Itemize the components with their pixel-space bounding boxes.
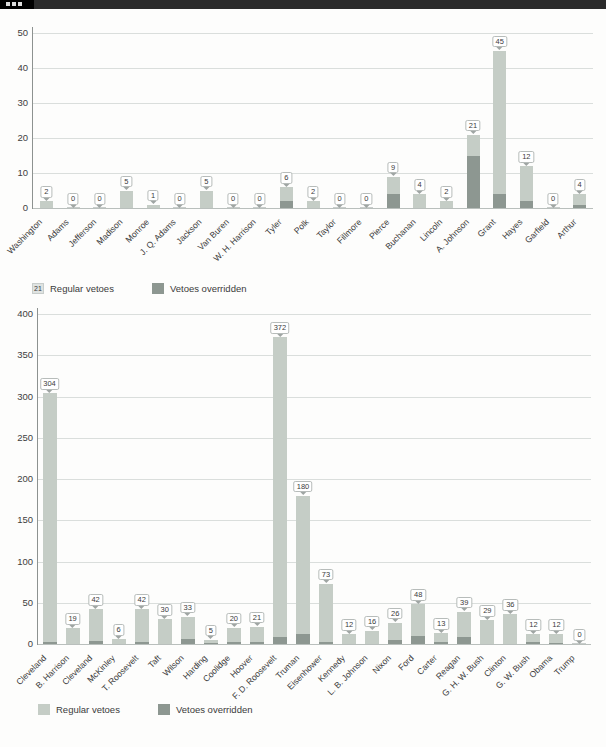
bar-segment-regular (200, 191, 213, 209)
callout-arrow-icon (497, 47, 503, 50)
value-callout: 0 (67, 193, 78, 208)
value-callout: 0 (361, 193, 372, 208)
callout-arrow-icon (507, 611, 513, 614)
bar-kennedy[interactable] (342, 634, 356, 644)
bar-f-d-roosevelt[interactable] (273, 337, 287, 644)
bar-truman[interactable] (296, 496, 310, 645)
bar-hayes[interactable] (520, 166, 533, 208)
callout-arrow-icon (231, 624, 237, 627)
x-axis-category-label: Jefferson (66, 217, 98, 249)
bar-segment-regular (250, 627, 264, 642)
bar-segment-regular (319, 584, 333, 643)
value-callout-label: 0 (361, 193, 372, 205)
value-callout-label: 29 (480, 605, 495, 617)
bar-wilson[interactable] (181, 617, 195, 644)
chart2-plot-area: 050100150200250300350400304Cleveland19B.… (38, 314, 591, 644)
value-callout: 2 (41, 186, 52, 201)
bar-segment-regular (43, 393, 57, 642)
bar-pierce[interactable] (387, 177, 400, 209)
bar-harding[interactable] (204, 640, 218, 644)
x-axis-category-label: Taylor (314, 217, 337, 240)
bar-segment-regular (307, 201, 320, 208)
bar-segment-overridden (387, 194, 400, 208)
bar-taft[interactable] (158, 619, 172, 644)
bar-mckinley[interactable] (112, 639, 126, 644)
value-callout-label: 2 (441, 186, 452, 198)
bar-l-b-johnson[interactable] (365, 631, 379, 644)
value-callout: 20 (226, 613, 241, 628)
bar-jackson[interactable] (200, 191, 213, 209)
x-axis-category-label: Polk (292, 217, 311, 236)
callout-arrow-icon (208, 636, 214, 639)
x-axis-category-label: Garfield (523, 217, 551, 245)
value-callout: 6 (281, 172, 292, 187)
bar-nixon[interactable] (388, 623, 402, 644)
value-callout: 45 (492, 36, 507, 51)
bar-segment-regular (526, 634, 540, 641)
bar-segment-overridden (319, 642, 333, 644)
value-callout-label: 21 (465, 120, 480, 132)
bar-carter[interactable] (434, 633, 448, 644)
bar-b-harrison[interactable] (66, 628, 80, 644)
value-callout-label: 4 (414, 179, 425, 191)
callout-arrow-icon (323, 580, 329, 583)
bar-grant[interactable] (493, 51, 506, 209)
bar-reagan[interactable] (457, 612, 471, 644)
bar-segment-regular (158, 619, 172, 644)
x-axis-category-label: Grant (475, 217, 497, 239)
bar-segment-overridden (204, 643, 218, 644)
bar-segment-regular (89, 609, 103, 640)
bar-obama[interactable] (549, 634, 563, 644)
bar-t-roosevelt[interactable] (135, 609, 149, 644)
value-callout: 13 (434, 618, 449, 633)
bar-segment-regular (135, 609, 149, 642)
callout-arrow-icon (254, 623, 260, 626)
bar-eisenhower[interactable] (319, 584, 333, 644)
value-callout-label: 5 (201, 176, 212, 188)
value-callout: 36 (503, 599, 518, 614)
bar-hoover[interactable] (250, 627, 264, 644)
gridline (38, 438, 591, 439)
bar-segment-regular (181, 617, 195, 639)
callout-arrow-icon (443, 198, 449, 201)
bar-segment-overridden (135, 642, 149, 644)
callout-arrow-icon (337, 205, 343, 208)
value-callout: 0 (574, 629, 585, 644)
value-callout-label: 372 (270, 322, 290, 334)
bar-arthur[interactable] (573, 194, 586, 208)
bar-coolidge[interactable] (227, 628, 241, 645)
bar-madison[interactable] (120, 191, 133, 209)
value-callout-label: 0 (547, 193, 558, 205)
bar-segment-overridden (434, 642, 448, 644)
bar-segment-regular (388, 623, 402, 640)
value-callout-label: 5 (121, 176, 132, 188)
bar-a-johnson[interactable] (467, 135, 480, 209)
bar-monroe[interactable] (147, 205, 160, 209)
bar-buchanan[interactable] (413, 194, 426, 208)
bar-cleveland[interactable] (43, 393, 57, 644)
gridline (38, 314, 591, 315)
callout-arrow-icon (162, 616, 168, 619)
gridline (33, 103, 593, 104)
value-callout-label: 0 (334, 193, 345, 205)
y-axis-tick-label: 50 (1, 28, 28, 38)
callout-arrow-icon (461, 608, 467, 611)
value-callout-label: 13 (434, 618, 449, 630)
bar-ford[interactable] (411, 604, 425, 644)
callout-arrow-icon (310, 198, 316, 201)
bar-cleveland[interactable] (89, 609, 103, 644)
bar-g-w-bush[interactable] (526, 634, 540, 644)
legend-label-regular: Regular vetoes (56, 704, 120, 715)
bar-lincoln[interactable] (440, 201, 453, 208)
bar-polk[interactable] (307, 201, 320, 208)
chart1-legend: 21 Regular vetoes Vetoes overridden (32, 283, 247, 294)
bar-washington[interactable] (40, 201, 53, 208)
chart1-plot-area: 010203040502Washington0Adams0Jefferson5M… (33, 33, 593, 208)
bar-clinton[interactable] (503, 614, 517, 644)
value-callout-label: 0 (254, 193, 265, 205)
value-callout: 0 (334, 193, 345, 208)
x-axis-category-label: Hayes (500, 217, 524, 241)
bar-g-h-w-bush[interactable] (480, 620, 494, 644)
x-axis-category-label: Obama (528, 653, 555, 680)
bar-tyler[interactable] (280, 187, 293, 208)
